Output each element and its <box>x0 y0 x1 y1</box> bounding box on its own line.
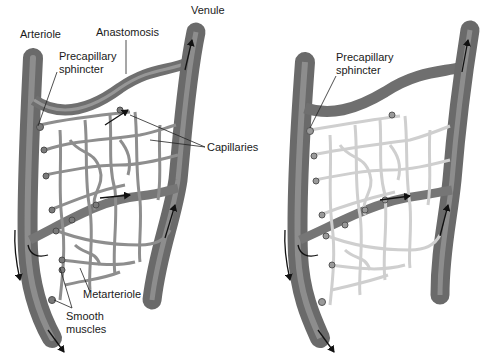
label-anastomosis: Anastomosis <box>96 26 159 39</box>
capillary-bed-diagram: Arteriole Anastomosis Venule Precapillar… <box>0 0 485 364</box>
label-precapillary-sphincter-right-line2: sphincter <box>336 64 381 77</box>
metarteriole-vessel <box>30 188 178 240</box>
left-panel <box>15 32 205 352</box>
capillary-network-empty <box>310 116 450 305</box>
right-panel <box>285 30 470 352</box>
label-precapillary-sphincter-line2: sphincter <box>59 63 104 76</box>
label-capillaries: Capillaries <box>207 141 258 154</box>
label-arteriole: Arteriole <box>20 28 61 41</box>
label-precapillary-sphincter-right-line1: Precapillary <box>336 51 393 64</box>
label-metarteriole: Metarteriole <box>83 288 141 301</box>
label-leaders-right <box>310 76 336 128</box>
label-precapillary-sphincter-line1: Precapillary <box>59 50 116 63</box>
label-smooth-muscles-line2: muscles <box>66 323 106 336</box>
anastomosis-vessel-right <box>305 68 458 111</box>
label-venule: Venule <box>191 4 225 17</box>
label-smooth-muscles-line1: Smooth <box>66 310 104 323</box>
